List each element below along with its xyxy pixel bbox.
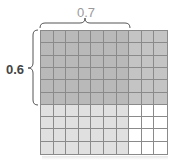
grid-cell xyxy=(117,105,130,117)
grid-cell xyxy=(154,129,167,141)
grid-cell xyxy=(154,56,167,68)
grid-cell xyxy=(66,129,79,141)
grid-cell xyxy=(54,31,67,43)
grid-cell xyxy=(142,43,155,55)
grid-cell xyxy=(54,142,67,154)
grid-cell xyxy=(142,80,155,92)
grid-cell xyxy=(79,80,92,92)
grid-cell xyxy=(104,142,117,154)
grid-cell xyxy=(41,43,54,55)
grid-cell xyxy=(91,68,104,80)
grid-cell xyxy=(79,31,92,43)
grid-cell xyxy=(104,105,117,117)
grid-cell xyxy=(41,105,54,117)
grid-cell xyxy=(129,56,142,68)
grid-cell xyxy=(117,129,130,141)
grid-cell xyxy=(104,117,117,129)
grid-cell xyxy=(41,93,54,105)
grid-cell xyxy=(154,117,167,129)
grid-cell xyxy=(104,56,117,68)
grid-cell xyxy=(54,129,67,141)
grid-cell xyxy=(41,129,54,141)
grid-cell xyxy=(66,43,79,55)
grid-cell xyxy=(79,56,92,68)
grid-cell xyxy=(79,142,92,154)
grid-cell xyxy=(117,80,130,92)
grid-cell xyxy=(79,105,92,117)
grid-cell xyxy=(104,80,117,92)
grid-cell xyxy=(79,129,92,141)
grid-cell xyxy=(154,31,167,43)
grid-cell xyxy=(41,56,54,68)
grid-cell xyxy=(104,43,117,55)
grid-cell xyxy=(66,56,79,68)
grid-cell xyxy=(79,68,92,80)
grid-cell xyxy=(91,31,104,43)
grid-cell xyxy=(129,93,142,105)
grid-cell xyxy=(129,117,142,129)
grid-cell xyxy=(79,43,92,55)
grid-cell xyxy=(117,142,130,154)
grid-cell xyxy=(91,93,104,105)
grid-cell xyxy=(117,68,130,80)
grid-cell xyxy=(54,43,67,55)
grid-cell xyxy=(66,93,79,105)
grid-cell xyxy=(79,117,92,129)
grid-cell xyxy=(54,56,67,68)
grid-cell xyxy=(91,56,104,68)
grid-cell xyxy=(154,142,167,154)
grid-cell xyxy=(117,56,130,68)
grid-cell xyxy=(154,80,167,92)
grid-cell xyxy=(91,43,104,55)
grid-cell xyxy=(66,80,79,92)
grid-cell xyxy=(129,80,142,92)
grid-cell xyxy=(142,142,155,154)
grid-cell xyxy=(54,93,67,105)
grid-cell xyxy=(154,43,167,55)
grid-cell xyxy=(66,31,79,43)
grid-cell xyxy=(54,68,67,80)
grid-cell xyxy=(91,129,104,141)
grid-cell xyxy=(142,117,155,129)
grid-cell xyxy=(66,142,79,154)
grid-cell xyxy=(41,31,54,43)
grid-cell xyxy=(142,93,155,105)
grid-cell xyxy=(117,117,130,129)
grid-cell xyxy=(91,142,104,154)
grid-shadow xyxy=(42,156,168,160)
grid-cell xyxy=(41,80,54,92)
grid-cell xyxy=(129,129,142,141)
grid-cell xyxy=(142,31,155,43)
grid-cell xyxy=(154,93,167,105)
grid-cell xyxy=(79,93,92,105)
grid-cell xyxy=(41,142,54,154)
grid-cell xyxy=(142,68,155,80)
grid-cell xyxy=(54,80,67,92)
grid-cell xyxy=(154,68,167,80)
grid-cell xyxy=(104,31,117,43)
left-brace-icon xyxy=(28,30,38,105)
grid-cell xyxy=(117,31,130,43)
grid-cell xyxy=(91,105,104,117)
grid-cell xyxy=(54,117,67,129)
grid-cell xyxy=(142,56,155,68)
grid-cell xyxy=(129,43,142,55)
grid-cell xyxy=(142,105,155,117)
grid-cell xyxy=(129,142,142,154)
grid-cell xyxy=(66,68,79,80)
grid-cell xyxy=(41,68,54,80)
grid-cell xyxy=(66,105,79,117)
grid-cell xyxy=(117,93,130,105)
grid-cell xyxy=(129,105,142,117)
grid-cell xyxy=(104,68,117,80)
top-brace-icon xyxy=(40,18,130,28)
grid-cell xyxy=(66,117,79,129)
grid-cell xyxy=(104,93,117,105)
grid-cell xyxy=(142,129,155,141)
grid-cell xyxy=(104,129,117,141)
grid-cell xyxy=(41,117,54,129)
decimal-grid xyxy=(40,30,168,155)
grid-cell xyxy=(91,117,104,129)
grid-cell xyxy=(154,105,167,117)
grid-cell xyxy=(91,80,104,92)
